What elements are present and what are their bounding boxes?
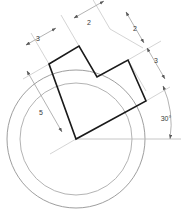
ext-line-b xyxy=(61,15,79,46)
ext-line-a xyxy=(31,33,49,64)
dim-label-top-2: 2 xyxy=(87,19,91,26)
dim-label-left-5: 5 xyxy=(39,109,43,116)
dim-line-top-left-3 xyxy=(26,28,56,45)
ext-line-i xyxy=(110,29,143,48)
dim-line-top-2 xyxy=(74,1,104,18)
angle-label: 30° xyxy=(161,115,172,122)
dim-label-right-2: 2 xyxy=(133,25,137,32)
angle-arc xyxy=(163,86,171,139)
dim-label-top-left-3: 3 xyxy=(36,35,40,42)
angle-arc-group xyxy=(163,86,171,139)
ext-line-c xyxy=(92,0,110,29)
dim-line-left-5 xyxy=(27,71,62,132)
technical-drawing: 3 2 2 3 5 30° xyxy=(0,0,194,220)
dim-label-right-3: 3 xyxy=(154,57,158,64)
notched-rectangle-outline xyxy=(49,46,146,139)
ext-line-h xyxy=(50,139,76,154)
drawing-canvas: 3 2 2 3 5 30° xyxy=(0,0,194,220)
dimension-lines xyxy=(26,1,165,132)
